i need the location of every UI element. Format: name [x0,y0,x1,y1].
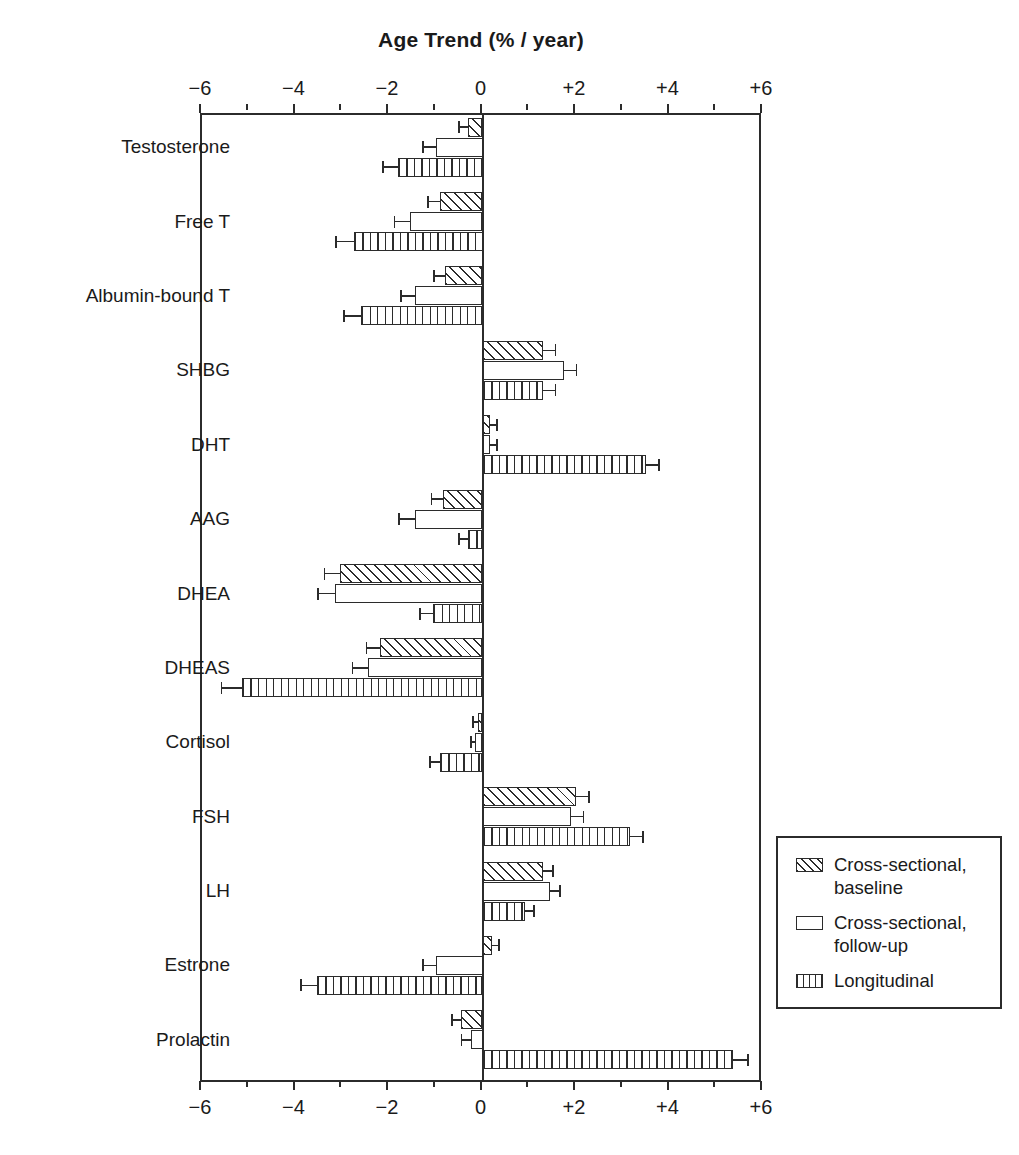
error-bar-stem [366,647,380,649]
bar [335,584,482,603]
error-bar-stem [398,518,414,520]
legend-item-label: Cross-sectional, follow-up [834,911,967,958]
category-label: DHEAS [165,657,230,679]
legend-swatch-vlines-icon [796,974,823,988]
error-bar-cap [747,1054,749,1066]
axis-tick-minor [713,104,715,110]
bar [483,381,544,400]
error-bar-cap [555,384,557,396]
error-bar-cap [317,588,319,600]
error-bar-stem [427,201,440,203]
bar [483,1050,733,1069]
axis-tick-minor [339,104,341,110]
bar [415,286,483,305]
category-label: Prolactin [156,1029,230,1051]
error-bar-stem [433,275,445,277]
bar [475,733,482,752]
chart-page: Age Trend (% / year) −6−4−20+2+4+6 −6−4−… [0,0,1019,1155]
error-bar-cap [431,493,433,505]
bar [471,1030,483,1049]
axis-tick-major [760,1081,762,1090]
legend-item: Cross-sectional, follow-up [796,911,1000,958]
axis-tick-major [573,104,575,113]
bar [483,787,577,806]
bar [436,138,483,157]
axis-tick-major [760,104,762,113]
error-bar-stem [422,146,436,148]
category-label: Free T [174,211,230,233]
error-bar-stem [324,573,340,575]
legend-swatch-white-icon [796,916,823,930]
axis-tick-minor [433,1081,435,1087]
error-bar-cap [366,642,368,654]
bar [483,341,544,360]
axis-tick-major [480,104,482,113]
bar [433,604,482,623]
axis-tick-minor [526,1081,528,1087]
category-label: AAG [190,508,230,530]
plot-area [200,113,761,1080]
axis-tick-minor [339,1081,341,1087]
category-label: LH [206,880,230,902]
category-label: Testosterone [121,136,230,158]
category-label: SHBG [176,359,230,381]
category-label: DHEA [177,583,230,605]
bar [398,158,482,177]
error-bar-stem [352,667,368,669]
bar [436,956,483,975]
bar [483,827,630,846]
bar [468,530,482,549]
bar [483,902,525,921]
axis-tick-label: −4 [282,1096,305,1119]
legend-item: Longitudinal [796,969,1000,992]
legend-item-label: Longitudinal [834,969,934,992]
bar [483,807,572,826]
error-bar-cap [382,161,384,173]
bar [361,306,483,325]
error-bar-cap [419,608,421,620]
error-bar-cap [429,756,431,768]
error-bar-cap [461,1034,463,1046]
axis-tick-major [293,1081,295,1090]
axis-tick-label: +2 [563,1096,586,1119]
bar [440,753,482,772]
error-bar-cap [451,1014,453,1026]
axis-tick-label: +2 [563,77,586,100]
axis-tick-label: −2 [376,1096,399,1119]
bottom-axis: −6−4−20+2+4+6 [200,1080,761,1081]
error-bar-stem [394,221,410,223]
error-bar-cap [583,811,585,823]
error-bar-cap [472,716,474,728]
error-bar-cap [343,310,345,322]
axis-tick-label: −4 [282,77,305,100]
error-bar-cap [433,270,435,282]
category-label: Estrone [165,954,230,976]
error-bar-cap [427,196,429,208]
error-bar-stem [400,295,415,297]
error-bar-cap [398,513,400,525]
legend: Cross-sectional, baseline Cross-sectiona… [776,836,1002,1009]
error-bar-stem [431,498,443,500]
axis-tick-minor [246,1081,248,1087]
error-bar-cap [400,290,402,302]
bar [410,212,482,231]
error-bar-cap [394,216,396,228]
axis-tick-major [480,1081,482,1090]
axis-tick-label: +6 [750,77,773,100]
error-bar-cap [588,791,590,803]
error-bar-stem [317,593,335,595]
category-label: Cortisol [166,731,230,753]
error-bar-cap [422,959,424,971]
legend-swatch-hatch-icon [796,858,823,872]
error-bar-stem [419,613,433,615]
bar [483,415,490,434]
bar [380,638,483,657]
axis-tick-label: −2 [376,77,399,100]
axis-tick-label: +6 [750,1096,773,1119]
axis-tick-major [573,1081,575,1090]
error-bar-stem [221,687,242,689]
axis-tick-major [199,1081,201,1090]
error-bar-cap [498,939,500,951]
error-bar-cap [324,568,326,580]
bar [478,713,483,732]
